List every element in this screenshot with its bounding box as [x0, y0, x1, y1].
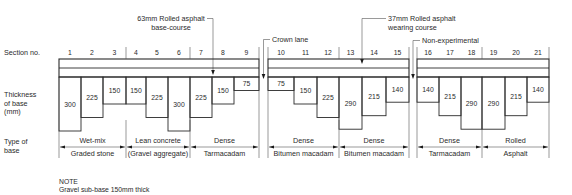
pavement-sections-diagram: 63mm Rolled asphaltbase-courseCrown lane…: [0, 0, 572, 195]
section-number: 7: [199, 49, 203, 56]
section-number: 15: [394, 49, 402, 56]
arrow-right-icon: [476, 145, 481, 148]
section-number: 1: [68, 49, 72, 56]
base-type-bottom-label: Bitumen macadam: [344, 149, 404, 158]
arrow-down-icon: [211, 70, 215, 75]
base-course-leader: [207, 19, 213, 72]
thickness-value: 300: [64, 101, 76, 108]
thickness-value: 215: [368, 93, 380, 100]
wearing-course-label-2: wearing course: [387, 23, 437, 32]
base-course-label: 63mm Rolled asphalt: [137, 14, 205, 23]
thickness-value: 75: [243, 80, 251, 87]
thickness-value: 290: [345, 100, 357, 107]
thickness-value: 300: [173, 101, 185, 108]
arrow-left-icon: [191, 145, 196, 148]
base-type-bottom-label: Bitumen macadam: [274, 149, 334, 158]
base-type-bottom-label: (Gravel aggregate): [128, 149, 188, 158]
section-number: 17: [446, 49, 454, 56]
arrow-down-icon: [360, 59, 364, 64]
thickness-value: 225: [151, 94, 163, 101]
arrow-left-icon: [60, 145, 65, 148]
arrow-down-icon: [262, 74, 266, 79]
thickness-value: 215: [444, 93, 456, 100]
base-type-top-label: Wet-mix: [79, 136, 106, 145]
annotations: 63mm Rolled asphaltbase-courseCrown lane…: [137, 14, 479, 79]
arrow-right-icon: [120, 145, 125, 148]
section-number: 9: [245, 49, 249, 56]
thickness-value: 290: [466, 100, 478, 107]
thickness-value: 150: [109, 87, 121, 94]
section-number: 10: [277, 49, 285, 56]
section-number: 19: [490, 49, 498, 56]
base-type-top-label: Lean concrete: [135, 136, 181, 145]
base-type-top-label: Rolled: [505, 136, 525, 145]
section-number: 16: [424, 49, 432, 56]
arrow-right-icon: [543, 145, 548, 148]
base-type-top-label: Dense: [293, 136, 314, 145]
section-number: 21: [534, 49, 542, 56]
arrow-left-icon: [418, 145, 423, 148]
thickness-value: 140: [422, 86, 434, 93]
section-number: 13: [347, 49, 355, 56]
thickness-value: 290: [488, 100, 500, 107]
base-type-bottom-label: Tarmacadam: [204, 149, 246, 158]
non-experimental-label: Non-experimental: [422, 36, 479, 45]
section-number: 6: [177, 49, 181, 56]
thickness-value: 150: [130, 87, 142, 94]
section-number: 2: [90, 49, 94, 56]
base-course-label-2: base-course: [151, 23, 191, 32]
base-type-top-label: Dense: [214, 136, 235, 145]
section-number: 18: [468, 49, 476, 56]
arrow-left-icon: [483, 145, 488, 148]
thickness-value: 75: [277, 80, 285, 87]
thickness-value: 225: [86, 94, 98, 101]
thickness-value: 225: [195, 94, 207, 101]
thickness-value: 140: [532, 86, 544, 93]
thickness-value: 225: [322, 94, 334, 101]
section-number: 20: [512, 49, 520, 56]
base-types: Wet-mixGraded stoneLean concrete(Gravel …: [60, 120, 548, 158]
base-type-bottom-label: Tarmacadam: [429, 149, 471, 158]
section-number: 11: [302, 49, 309, 56]
base-type-top-label: Dense: [439, 136, 460, 145]
section-number: 8: [221, 49, 225, 56]
thickness-value: 215: [510, 93, 522, 100]
arrow-down-icon: [411, 74, 415, 79]
base-type-bottom-label: Graded stone: [71, 149, 115, 158]
base-type-top-label: Dense: [364, 136, 385, 145]
thickness-value: 150: [300, 87, 312, 94]
section-number: 12: [324, 49, 332, 56]
crown-lane-label: Crown lane: [272, 35, 308, 44]
section-number: 14: [370, 49, 378, 56]
arrow-right-icon: [253, 145, 258, 148]
thickness-value: 140: [392, 86, 404, 93]
base-type-bottom-label: Asphalt: [504, 149, 528, 158]
section-number: 4: [134, 49, 138, 56]
section-number: 5: [155, 49, 159, 56]
section-number: 3: [113, 49, 117, 56]
crown-lane-leader: [264, 40, 271, 75]
arrow-right-icon: [333, 145, 338, 148]
thickness-value: 150: [217, 87, 229, 94]
